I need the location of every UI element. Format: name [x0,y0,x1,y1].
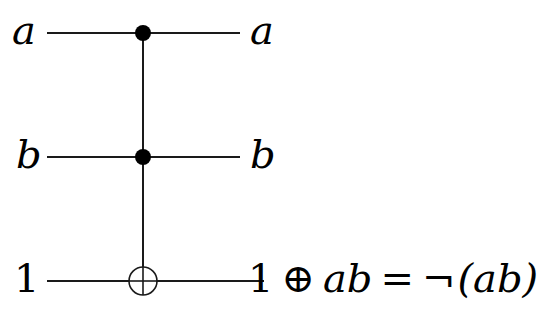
control-dot-a [135,25,151,41]
expr-paren-ab: (ab) [457,258,538,298]
xor-symbol: ⊕ [273,258,323,298]
input-label-b: b [16,134,42,174]
target-xor-icon [129,267,157,295]
output-label-b: b [250,134,276,174]
expr-ab: ab [323,258,372,298]
input-label-a: a [12,10,36,50]
input-label-target: 1 [14,258,39,298]
output-expression: 1 ⊕ ab = ¬ (ab) [248,258,538,298]
not-symbol: ¬ [422,258,458,298]
equals-symbol: = [372,258,422,298]
expr-one: 1 [248,258,273,298]
control-dot-b [135,149,151,165]
output-label-a: a [250,10,274,50]
